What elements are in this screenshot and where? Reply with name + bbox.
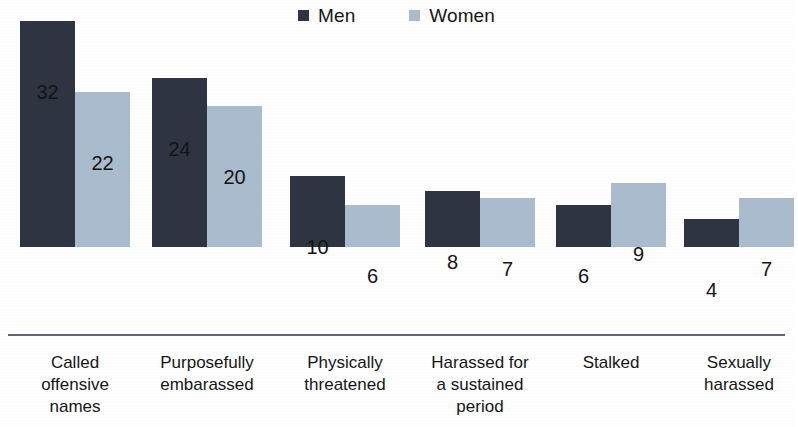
bar-men-4 [425, 191, 480, 247]
bar-men-2 [152, 78, 207, 247]
bar-value-women-1: 22 [75, 153, 130, 173]
category-label-1: Calledoffensivenames [5, 352, 145, 418]
category-label-line: Stalked [541, 352, 681, 374]
bar-value-men-1: 32 [20, 82, 75, 102]
x-axis-line [8, 334, 785, 336]
bar-value-women-4: 7 [480, 259, 535, 279]
category-label-line: threatened [275, 374, 415, 396]
category-label-4: Harassed fora sustainedperiod [410, 352, 550, 418]
category-label-2: Purposefullyembarassed [137, 352, 277, 396]
category-label-line: a sustained [410, 374, 550, 396]
bar-men-5 [556, 205, 611, 247]
category-label-line: Called [5, 352, 145, 374]
bar-value-men-6: 4 [684, 280, 739, 300]
bar-women-6 [739, 198, 794, 247]
bar-value-men-4: 8 [425, 252, 480, 272]
plot-area: 32222420106876947 [0, 0, 793, 340]
category-label-line: harassed [669, 374, 798, 396]
bar-value-women-2: 20 [207, 167, 262, 187]
bar-women-4 [480, 198, 535, 247]
bar-value-women-3: 6 [345, 266, 400, 286]
category-label-line: Harassed for [410, 352, 550, 374]
category-label-line: offensive [5, 374, 145, 396]
category-label-line: names [5, 396, 145, 418]
category-label-line: Physically [275, 352, 415, 374]
category-label-5: Stalked [541, 352, 681, 374]
bar-men-1 [20, 21, 75, 247]
bar-men-6 [684, 219, 739, 247]
category-label-6: Sexuallyharassed [669, 352, 798, 396]
bar-value-men-2: 24 [152, 139, 207, 159]
bar-value-women-6: 7 [739, 259, 794, 279]
category-label-line: Purposefully [137, 352, 277, 374]
bar-value-women-5: 9 [611, 244, 666, 264]
bar-women-5 [611, 183, 666, 247]
category-label-3: Physicallythreatened [275, 352, 415, 396]
bar-value-men-5: 6 [556, 266, 611, 286]
category-label-line: embarassed [137, 374, 277, 396]
bar-women-3 [345, 205, 400, 247]
category-label-line: period [410, 396, 550, 418]
category-label-line: Sexually [669, 352, 798, 374]
bar-value-men-3: 10 [290, 237, 345, 257]
